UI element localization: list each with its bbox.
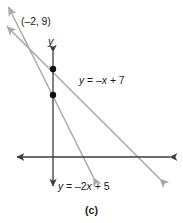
equation-label-line-2: y = –2x + 5: [58, 181, 109, 192]
point-y-intercept-7: [50, 66, 56, 72]
intersection-point-label: (–2, 9): [21, 16, 51, 27]
figure-caption: (c): [0, 205, 183, 216]
equation-label-line-1: y = –x + 7: [79, 75, 125, 86]
point-y-intercept-5: [50, 92, 56, 98]
graph-figure: (–2, 9) y y = –x + 7 y = –2x + 5 (c): [0, 0, 183, 223]
line-group: [7, 7, 160, 179]
line-y-eq-neg-2x-plus-5: [9, 7, 94, 178]
y-axis-label: y: [48, 36, 54, 47]
